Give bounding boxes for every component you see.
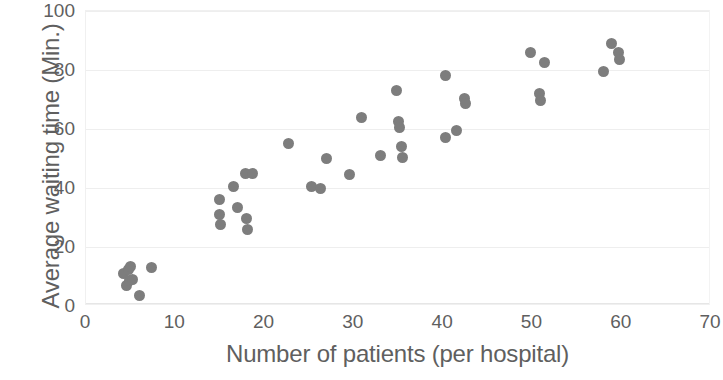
data-point	[440, 70, 451, 81]
data-point	[321, 153, 332, 164]
x-tick-label: 0	[65, 312, 105, 331]
data-point	[391, 85, 402, 96]
gridline	[86, 188, 709, 189]
data-point	[283, 138, 294, 149]
x-tick-label: 10	[154, 312, 194, 331]
x-axis-line	[86, 303, 709, 304]
data-point	[146, 262, 157, 273]
x-axis-title: Number of patients (per hospital)	[85, 340, 710, 368]
data-point	[440, 132, 451, 143]
data-point	[344, 169, 355, 180]
data-point	[214, 194, 225, 205]
data-point	[215, 219, 226, 230]
y-axis-title: Average waiting time (Min.)	[37, 6, 65, 326]
data-point	[614, 54, 625, 65]
x-tick-label: 70	[690, 312, 723, 331]
data-point	[315, 183, 326, 194]
data-point	[241, 213, 252, 224]
x-tick-label: 40	[422, 312, 462, 331]
data-point	[394, 122, 405, 133]
data-point	[356, 112, 367, 123]
data-point	[127, 274, 138, 285]
data-point	[451, 125, 462, 136]
data-point	[539, 57, 550, 68]
gridline	[86, 11, 709, 12]
data-point	[525, 47, 536, 58]
data-point	[460, 98, 471, 109]
x-tick-label: 60	[601, 312, 641, 331]
plot-area	[85, 10, 710, 305]
data-point	[598, 66, 609, 77]
data-point	[134, 290, 145, 301]
data-point	[535, 95, 546, 106]
data-point	[242, 224, 253, 235]
data-point	[396, 141, 407, 152]
data-point	[232, 202, 243, 213]
data-point	[375, 150, 386, 161]
x-tick-label: 30	[333, 312, 373, 331]
data-point	[125, 261, 136, 272]
data-point	[228, 181, 239, 192]
x-tick-label: 20	[244, 312, 284, 331]
gridline	[86, 247, 709, 248]
gridline	[86, 70, 709, 71]
data-point	[397, 152, 408, 163]
data-point	[247, 168, 258, 179]
scatter-chart: Average waiting time (Min.) Number of pa…	[0, 0, 723, 380]
x-tick-label: 50	[511, 312, 551, 331]
